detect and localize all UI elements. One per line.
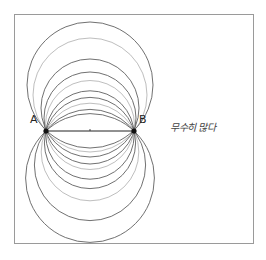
label-b: B (139, 113, 147, 126)
circle-through-ab (34, 109, 145, 220)
circles-diagram (0, 0, 266, 260)
point-a (43, 128, 48, 133)
point-b (131, 128, 136, 133)
circle-through-ab (46, 91, 134, 179)
circle-through-ab (44, 72, 136, 164)
circle-through-ab (46, 81, 135, 170)
circle-through-ab (44, 97, 135, 188)
label-a: A (30, 113, 38, 126)
circle-through-ab (41, 59, 139, 157)
handwritten-annotation: 무수히 많다 (170, 119, 215, 134)
